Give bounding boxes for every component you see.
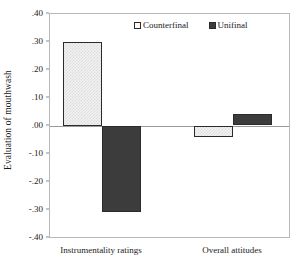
bar-counterfinal-overall [194,126,233,137]
bar-unifinal-overall [233,114,272,125]
y-tick-label: -.20 [14,176,46,186]
y-axis-tick-labels: .40 .30 .20 .10 .00 -.10 -.20 -.30 -.40 [14,0,46,265]
x-tick-label-instrumentality-ratings: Instrumentality ratings [60,245,142,255]
y-tick-label: .10 [14,92,46,102]
y-tick-label: .40 [14,8,46,18]
legend-label-counterfinal: Counterfinal [143,20,189,30]
open-square-swatch-icon [134,22,141,29]
legend-entry-unifinal: Unifinal [209,20,248,30]
y-tick-label: -.10 [14,148,46,158]
filled-square-swatch-icon [209,22,216,29]
bar-chart-figure: Evaluation of mouthwash .40 .30 .20 .10 … [0,0,303,265]
bar-counterfinal-instrumentality [63,42,102,126]
legend-label-unifinal: Unifinal [218,20,248,30]
plot-area [49,13,290,238]
x-axis-tick-labels: Instrumentality ratings Overall attitude… [49,245,290,261]
y-tick-label: .30 [14,36,46,46]
legend-entry-counterfinal: Counterfinal [134,20,189,30]
y-tick-label: -.40 [14,232,46,242]
bar-unifinal-instrumentality [102,126,141,212]
y-tick-label: .00 [14,120,46,130]
y-tick-label: .20 [14,64,46,74]
y-tick-label: -.30 [14,204,46,214]
y-axis-title-text: Evaluation of mouthwash [3,70,13,170]
chart-legend: Counterfinal Unifinal [134,20,248,30]
zero-baseline [50,126,289,127]
x-tick-label-overall-attitudes: Overall attitudes [202,245,262,255]
